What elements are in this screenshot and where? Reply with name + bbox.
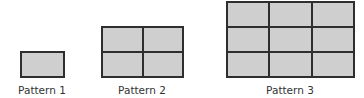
grid-cell (22, 53, 63, 76)
grid-cell (228, 3, 268, 26)
grid-cell (228, 53, 268, 76)
pattern-3-label: Pattern 3 (260, 84, 320, 96)
pattern-2-grid (101, 26, 184, 78)
pattern-3-grid (226, 1, 355, 78)
pattern-1-grid (20, 51, 65, 78)
grid-cell (103, 28, 142, 51)
grid-cell (313, 28, 353, 51)
grid-cell (228, 28, 268, 51)
grid-cell (270, 28, 310, 51)
grid-cell (144, 53, 183, 76)
grid-cell (313, 53, 353, 76)
grid-cell (313, 3, 353, 26)
grid-cell (270, 3, 310, 26)
pattern-2-label: Pattern 2 (112, 84, 172, 96)
pattern-1-label: Pattern 1 (12, 84, 72, 96)
grid-cell (270, 53, 310, 76)
grid-cell (103, 53, 142, 76)
grid-cell (144, 28, 183, 51)
